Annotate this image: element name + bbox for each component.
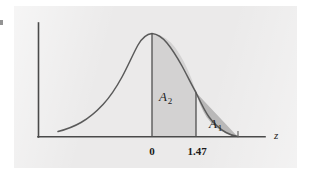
figure-root: A2 A1 z 0 1.47 [0, 0, 315, 178]
region-a2-fill [152, 34, 196, 138]
region-label-a1-subscript: 1 [218, 123, 223, 133]
tick-label-cutoff: 1.47 [187, 146, 206, 157]
region-label-a2-subscript: 2 [168, 96, 173, 106]
region-label-a1: A1 [209, 117, 222, 130]
region-label-a1-letter: A [209, 116, 217, 131]
distribution-plot [0, 0, 315, 178]
region-label-a2: A2 [159, 90, 172, 103]
region-label-a2-letter: A [159, 89, 167, 104]
x-axis-label: z [274, 130, 278, 141]
tick-label-zero: 0 [149, 146, 155, 157]
